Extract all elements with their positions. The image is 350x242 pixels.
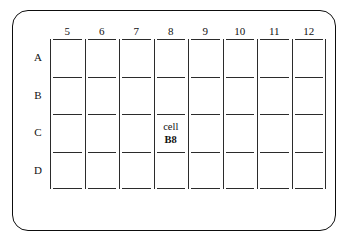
row-divider-bc <box>122 114 151 115</box>
row-divider-top <box>191 39 220 40</box>
row-divider-bc <box>226 114 255 115</box>
row-divider-cd <box>53 152 82 153</box>
row-divider-bottom <box>122 188 151 189</box>
row-divider-bottom <box>88 188 117 189</box>
row-divider-bc <box>191 114 220 115</box>
grid-right-edge <box>325 39 326 189</box>
column-divider <box>257 39 258 189</box>
column-header-row: 5 6 7 8 9 10 11 12 <box>50 23 326 39</box>
row-divider-top <box>157 39 186 40</box>
row-divider-bc <box>88 114 117 115</box>
grid-column-8[interactable]: cell B8 <box>154 39 189 189</box>
row-divider-ab <box>191 77 220 78</box>
grid-column-9[interactable] <box>188 39 223 189</box>
row-divider-bottom <box>260 188 289 189</box>
row-divider-cd <box>122 152 151 153</box>
row-divider-ab <box>226 77 255 78</box>
row-divider-cd <box>157 152 186 153</box>
grid-column-7[interactable] <box>119 39 154 189</box>
column-header-7: 7 <box>119 23 154 39</box>
grid-column-6[interactable] <box>85 39 120 189</box>
row-divider-top <box>226 39 255 40</box>
grid-column-12[interactable] <box>292 39 327 189</box>
row-divider-ab <box>260 77 289 78</box>
column-divider <box>223 39 224 189</box>
grid-column-11[interactable] <box>257 39 292 189</box>
row-divider-cd <box>191 152 220 153</box>
row-divider-ab <box>295 77 324 78</box>
column-divider <box>154 39 155 189</box>
row-divider-bottom <box>295 188 324 189</box>
row-divider-top <box>295 39 324 40</box>
row-divider-cd <box>88 152 117 153</box>
row-divider-bc <box>53 114 82 115</box>
grid-column-10[interactable] <box>223 39 258 189</box>
row-divider-cd <box>260 152 289 153</box>
column-divider <box>292 39 293 189</box>
row-label-column: A B C D <box>28 39 48 189</box>
row-divider-bc <box>295 114 324 115</box>
row-divider-bc <box>157 114 186 115</box>
column-header-12: 12 <box>292 23 327 39</box>
column-header-5: 5 <box>50 23 85 39</box>
cell-b8-annotation: cell B8 <box>154 114 189 152</box>
row-label-b: B <box>28 77 48 115</box>
row-label-a: A <box>28 39 48 77</box>
row-divider-cd <box>226 152 255 153</box>
column-header-10: 10 <box>223 23 258 39</box>
row-divider-cd <box>295 152 324 153</box>
row-divider-bc <box>260 114 289 115</box>
column-header-6: 6 <box>85 23 120 39</box>
row-label-c: C <box>28 114 48 152</box>
row-divider-ab <box>88 77 117 78</box>
row-divider-bottom <box>226 188 255 189</box>
cell-note-reference: B8 <box>165 133 177 146</box>
column-header-11: 11 <box>257 23 292 39</box>
cell-note-word: cell <box>163 120 178 133</box>
grid-column-5[interactable] <box>50 39 85 189</box>
column-header-8: 8 <box>154 23 189 39</box>
column-divider <box>50 39 51 189</box>
row-divider-top <box>88 39 117 40</box>
row-divider-bottom <box>157 188 186 189</box>
spreadsheet-grid: cell B8 <box>50 39 326 189</box>
column-divider <box>119 39 120 189</box>
column-divider <box>188 39 189 189</box>
column-header-9: 9 <box>188 23 223 39</box>
row-divider-top <box>53 39 82 40</box>
column-divider <box>85 39 86 189</box>
row-divider-ab <box>122 77 151 78</box>
row-divider-ab <box>53 77 82 78</box>
row-divider-ab <box>157 77 186 78</box>
row-divider-bottom <box>191 188 220 189</box>
row-label-d: D <box>28 152 48 190</box>
row-divider-bottom <box>53 188 82 189</box>
row-divider-top <box>122 39 151 40</box>
row-divider-top <box>260 39 289 40</box>
